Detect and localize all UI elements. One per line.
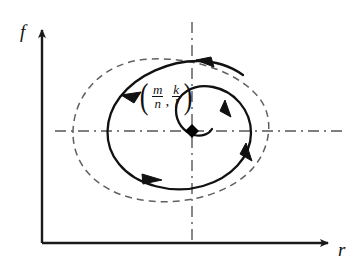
arrow-right-upper-icon bbox=[220, 100, 231, 117]
phase-portrait-canvas bbox=[0, 0, 361, 268]
fraction-m-over-n: m n bbox=[150, 83, 165, 111]
phase-portrait-figure: f r ( m n , k l ) bbox=[0, 0, 361, 268]
fixed-point-label: ( m n , k l ) bbox=[138, 82, 194, 112]
denominator-n: n bbox=[152, 96, 163, 110]
numerator-m: m bbox=[151, 83, 164, 96]
numerator-k: k bbox=[171, 83, 181, 96]
open-paren: ( bbox=[140, 82, 149, 112]
close-paren: ) bbox=[184, 82, 193, 112]
arrow-bottom-icon bbox=[142, 174, 162, 184]
y-axis-label: f bbox=[20, 22, 25, 41]
inner-solid-spiral bbox=[107, 61, 251, 189]
fraction-k-over-l: k l bbox=[170, 83, 182, 111]
denominator-l: l bbox=[172, 96, 180, 110]
x-axis-label: r bbox=[338, 240, 345, 259]
outer-dashed-orbit bbox=[73, 59, 269, 202]
